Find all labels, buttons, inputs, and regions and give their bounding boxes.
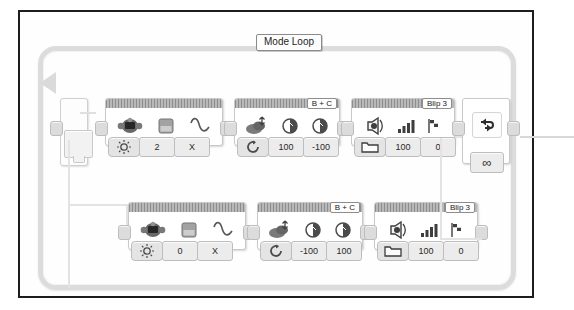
loop-title-label[interactable]: Mode Loop [256, 34, 322, 51]
move-tank-icon [268, 219, 292, 241]
compare-wave-icon [212, 220, 234, 240]
row2-return-wire-h [440, 238, 482, 240]
block-sound-bottom[interactable]: Blip 3 100 0 [374, 202, 478, 250]
param-play-type[interactable]: 0 [420, 137, 456, 157]
loop-reentry-arrow-icon [40, 72, 56, 94]
ambient-light-square-icon [157, 117, 175, 135]
param-compare-operator[interactable]: X [197, 241, 233, 261]
block-header [106, 99, 222, 108]
ambient-light-square-icon [180, 221, 198, 239]
speaker-icon [362, 115, 386, 137]
play-file-folder-icon[interactable] [377, 241, 409, 261]
program-canvas[interactable]: Mode Loop [20, 12, 532, 296]
program-canvas-frame: Mode Loop [18, 10, 534, 298]
param-compare-operator[interactable]: X [174, 137, 210, 157]
brightness-icon[interactable] [108, 137, 140, 157]
move-tank-icon [245, 115, 269, 137]
play-file-folder-icon[interactable] [354, 137, 386, 157]
case-wire-vertical [68, 140, 70, 288]
block-move-tank-top[interactable]: B + C 100 -100 [234, 98, 340, 146]
volume-bars-icon [420, 221, 438, 239]
on-icon[interactable] [237, 137, 269, 157]
block-params[interactable]: 2 X [108, 137, 209, 157]
param-power-right[interactable]: 100 [326, 241, 362, 261]
port-label[interactable]: B + C [330, 202, 360, 213]
param-threshold[interactable]: 2 [139, 137, 175, 157]
on-icon[interactable] [260, 241, 292, 261]
sound-file-label[interactable]: Blip 3 [445, 202, 475, 213]
block-params[interactable]: 100 -100 [237, 137, 338, 157]
loop-end-block[interactable]: ∞ [462, 98, 510, 164]
switch-input-nub [50, 121, 63, 136]
motor-c-dial-icon [311, 117, 329, 135]
loop-condition-infinite[interactable]: ∞ [470, 152, 504, 173]
param-power-left[interactable]: -100 [291, 241, 327, 261]
param-play-type[interactable]: 0 [443, 241, 479, 261]
block-wait-color-sensor-bottom[interactable]: 0 X [128, 202, 246, 250]
finish-flag-icon [449, 221, 467, 239]
param-power-right[interactable]: -100 [303, 137, 339, 157]
color-sensor-icon [140, 219, 166, 241]
sound-file-label[interactable]: Blip 3 [422, 98, 452, 109]
motor-b-dial-icon [281, 117, 299, 135]
param-threshold[interactable]: 0 [162, 241, 198, 261]
param-volume[interactable]: 100 [385, 137, 421, 157]
volume-bars-icon [397, 117, 415, 135]
block-params[interactable]: 0 X [131, 241, 232, 261]
row2-return-wire-v [440, 138, 442, 240]
case-wire-bottom [68, 204, 128, 206]
color-sensor-icon [117, 115, 143, 137]
motor-c-dial-icon [334, 221, 352, 239]
block-header [463, 99, 509, 108]
speaker-icon [385, 219, 409, 241]
port-label[interactable]: B + C [307, 98, 337, 109]
loop-arrow-icon [472, 112, 502, 138]
program-exit-wire [520, 136, 574, 138]
compare-wave-icon [189, 116, 211, 136]
brightness-icon[interactable] [131, 241, 163, 261]
block-params[interactable]: 100 0 [377, 241, 478, 261]
block-header [129, 203, 245, 212]
param-volume[interactable]: 100 [408, 241, 444, 261]
loop-end-output-nub [507, 121, 520, 136]
finish-flag-icon [426, 117, 444, 135]
case-wire-top [80, 112, 96, 114]
motor-b-dial-icon [304, 221, 322, 239]
loop-end-input-nub [452, 121, 465, 136]
block-move-tank-bottom[interactable]: B + C -100 100 [257, 202, 363, 250]
block-wait-color-sensor-top[interactable]: 2 X [105, 98, 223, 146]
param-power-left[interactable]: 100 [268, 137, 304, 157]
block-params[interactable]: -100 100 [260, 241, 361, 261]
